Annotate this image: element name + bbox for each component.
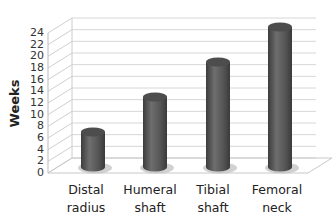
y-tick-label: 0: [22, 167, 44, 179]
x-category-label: Humeralshaft: [115, 181, 185, 217]
y-tick-label: 6: [22, 132, 44, 144]
x-category-label: Femoralneck: [242, 181, 312, 217]
y-tick-label: 18: [22, 62, 44, 74]
y-tick-label: 8: [22, 120, 44, 132]
y-tick-label: 24: [22, 27, 44, 39]
x-category-label-line: neck: [242, 199, 312, 217]
x-category-label: Distalradius: [51, 181, 121, 217]
y-tick-label: 10: [22, 109, 44, 121]
x-category-label-line: Tibial: [178, 181, 248, 199]
x-category-label-line: shaft: [178, 199, 248, 217]
x-category-label: Tibialshaft: [178, 181, 248, 217]
x-category-label-line: shaft: [115, 199, 185, 217]
bar-femoral-neck: [268, 23, 292, 172]
x-category-label-line: Distal: [51, 181, 121, 199]
bar-chart: Weeks 024681012141618202224 Distalradius…: [0, 0, 336, 222]
y-tick-label: 20: [22, 50, 44, 62]
y-tick-label: 4: [22, 144, 44, 156]
x-category-label-line: radius: [51, 199, 121, 217]
bar-distal-radius: [81, 128, 105, 172]
bar-humeral-shaft: [143, 93, 167, 172]
bar-tibial-shaft: [206, 58, 230, 172]
x-category-label-line: Humeral: [115, 181, 185, 199]
y-axis-label: Weeks: [7, 74, 22, 134]
y-tick-label: 12: [22, 97, 44, 109]
y-tick-label: 14: [22, 85, 44, 97]
y-tick-label: 22: [22, 39, 44, 51]
y-tick-label: 16: [22, 74, 44, 86]
x-category-label-line: Femoral: [242, 181, 312, 199]
y-tick-label: 2: [22, 155, 44, 167]
